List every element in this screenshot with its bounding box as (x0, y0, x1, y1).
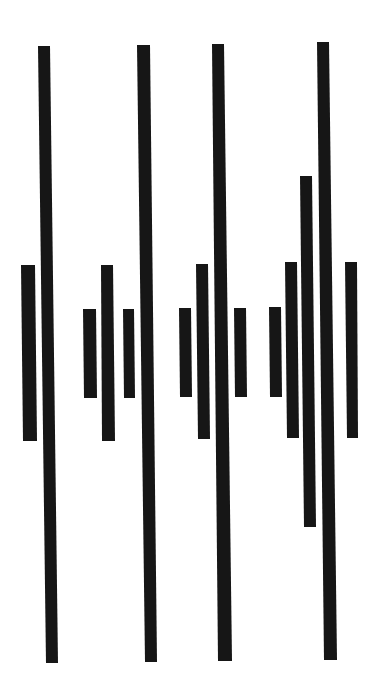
bar-group-2 (83, 45, 157, 662)
vertical-bar (196, 264, 210, 439)
vertical-bar (285, 262, 299, 438)
bar-group-3 (179, 44, 247, 661)
vertical-bar (83, 309, 97, 398)
vertical-bar (179, 308, 192, 397)
vertical-bar (123, 309, 135, 398)
vertical-bar (137, 45, 157, 662)
bar-group-4 (269, 42, 358, 660)
vertical-bar (101, 265, 115, 441)
vertical-bar (212, 44, 232, 661)
vertical-bar (269, 307, 282, 397)
vertical-bar (234, 308, 247, 397)
bar-group-1 (21, 46, 58, 663)
vertical-bar (21, 265, 37, 441)
vertical-bar (300, 176, 316, 527)
vertical-bar (317, 42, 337, 660)
vertical-bar (38, 46, 58, 663)
bar-figure (0, 0, 376, 693)
vertical-bar (345, 262, 358, 438)
